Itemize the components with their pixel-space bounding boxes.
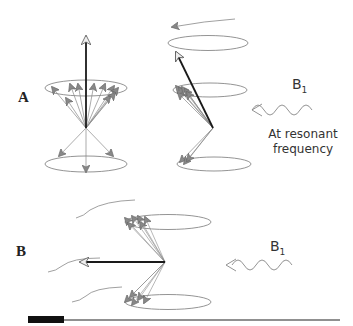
precession-arrow bbox=[172, 19, 235, 27]
precession-arrow-mid bbox=[48, 258, 100, 272]
tipped-magnetization-arrow bbox=[176, 52, 213, 128]
precession-arrow-bottom bbox=[72, 287, 122, 302]
rf-wave-b bbox=[226, 259, 236, 271]
panel-label-b: B bbox=[16, 243, 26, 260]
diagram-canvas bbox=[0, 0, 353, 326]
resonance-caption: At resonant frequency bbox=[262, 127, 344, 157]
b1-label-a: B1 bbox=[292, 76, 307, 95]
b1-label-b: B1 bbox=[270, 238, 285, 257]
panel-a-equilibrium-cones bbox=[45, 36, 127, 172]
panel-b-transverse bbox=[48, 200, 292, 310]
precession-arrow-top bbox=[76, 200, 135, 218]
spin-vectors-up bbox=[52, 84, 118, 128]
panel-label-a: A bbox=[18, 89, 29, 106]
scale-bar bbox=[28, 316, 340, 323]
phase-coherent-vectors bbox=[176, 86, 213, 164]
spin-vectors-down bbox=[59, 128, 113, 172]
